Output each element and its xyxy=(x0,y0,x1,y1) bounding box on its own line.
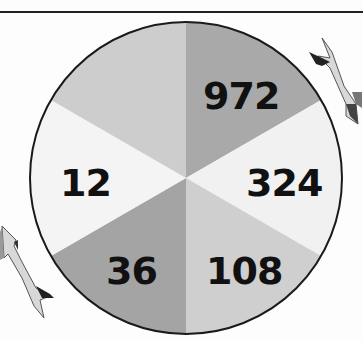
number-wheel: 972 324 108 36 12 xyxy=(0,0,363,341)
label-12: 12 xyxy=(60,161,111,205)
label-324: 324 xyxy=(246,161,322,205)
label-36: 36 xyxy=(106,249,157,293)
label-108: 108 xyxy=(206,249,282,293)
label-972: 972 xyxy=(203,74,279,118)
